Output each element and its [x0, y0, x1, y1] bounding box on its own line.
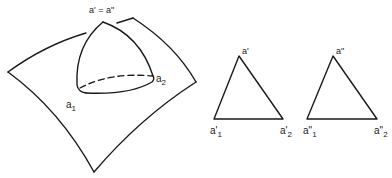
triangle-prime-left-subscript: 1	[217, 130, 221, 139]
spherical-edge-a1-to-a2	[86, 76, 154, 93]
vertex-a1-subscript: 1	[72, 104, 76, 113]
triangle-prime-left-label: a'1	[210, 126, 222, 139]
surface-right-edge	[133, 18, 196, 82]
triangle-double-prime-left-label: a"1	[303, 126, 317, 139]
flat-triangle-prime	[214, 56, 283, 119]
triangle-double-prime-apex-label: a"	[336, 47, 344, 56]
surface-top-right-edge	[117, 18, 133, 23]
triangle-prime-apex-label: a'	[242, 47, 249, 56]
vertex-label-a1: a1	[66, 100, 76, 113]
surface-bottom-edge	[94, 82, 196, 172]
vertex-label-a2: a2	[156, 74, 166, 87]
triangle-double-prime-right-label: a"2	[374, 126, 388, 139]
apex-label-a-prime-equals-a-double-prime: a' = a"	[89, 6, 114, 15]
triangle-double-prime-left-letter: a"	[303, 125, 312, 136]
triangle-double-prime-left-subscript: 1	[312, 130, 316, 139]
triangle-prime-right-subscript: 2	[287, 130, 291, 139]
triangle-prime-right-label: a'2	[280, 126, 292, 139]
surface-top-left-edge	[8, 33, 86, 72]
spherical-edge-apex-to-a2	[103, 22, 153, 76]
apex-label-text: a' = a"	[89, 5, 114, 15]
triangle-double-prime-right-letter: a"	[374, 125, 383, 136]
triangle-prime-apex-text: a'	[242, 46, 249, 56]
triangle-double-prime-apex-text: a"	[336, 46, 344, 56]
spherical-edge-apex-to-a1	[77, 22, 103, 93]
triangle-double-prime-right-subscript: 2	[383, 130, 387, 139]
spherical-hidden-edge-a1-to-a2	[80, 75, 152, 88]
vertex-a2-subscript: 2	[162, 78, 166, 87]
diagram-canvas	[0, 0, 392, 178]
flat-triangle-double-prime	[307, 56, 377, 119]
